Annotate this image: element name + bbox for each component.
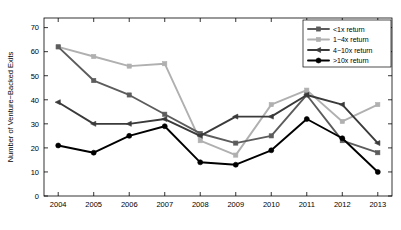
data-point — [376, 151, 380, 155]
x-tick-label: 2007 — [156, 200, 173, 209]
x-tick-label: 2008 — [192, 200, 209, 209]
x-tick-label: 2005 — [85, 200, 102, 209]
data-point — [127, 64, 131, 68]
series-line-2 — [58, 95, 378, 143]
data-point — [56, 143, 61, 148]
data-point — [162, 124, 167, 129]
data-point — [56, 45, 60, 49]
data-point — [375, 169, 380, 174]
y-tick-label: 40 — [31, 96, 39, 105]
data-point — [305, 88, 309, 92]
legend-label-0: <1x return — [333, 26, 365, 33]
y-tick-label: 20 — [31, 144, 39, 153]
x-tick-label: 2009 — [227, 200, 244, 209]
x-tick-label: 2010 — [263, 200, 280, 209]
data-point — [340, 119, 344, 123]
data-point — [269, 134, 273, 138]
data-point — [269, 148, 274, 153]
x-tick-label: 2012 — [334, 200, 351, 209]
y-tick-label: 30 — [31, 120, 39, 129]
legend-marker-0 — [316, 27, 320, 31]
data-point — [233, 162, 238, 167]
y-tick-label: 70 — [31, 23, 39, 32]
x-tick-label: 2011 — [299, 200, 315, 209]
data-point — [304, 117, 309, 122]
x-tick-label: 2004 — [50, 200, 67, 209]
data-point — [92, 54, 96, 58]
y-axis-title: Number of Venture−Backed Exits — [6, 51, 15, 162]
data-point — [234, 141, 238, 145]
data-point — [339, 102, 344, 107]
data-point — [126, 121, 131, 126]
data-point — [91, 150, 96, 155]
legend-label-1: 1−4x return — [333, 36, 369, 43]
line-chart: 0102030405060702004200520062007200820092… — [0, 0, 401, 230]
data-point — [340, 136, 345, 141]
legend-label-3: >10x return — [333, 57, 369, 64]
data-point — [198, 139, 202, 143]
data-point — [163, 62, 167, 66]
legend-marker-3 — [316, 58, 321, 63]
data-point — [55, 100, 60, 105]
data-point — [268, 114, 273, 119]
y-tick-label: 60 — [31, 47, 39, 56]
chart-figure: 0102030405060702004200520062007200820092… — [0, 0, 401, 230]
data-point — [234, 153, 238, 157]
data-point — [127, 93, 131, 97]
data-point — [376, 102, 380, 106]
y-tick-label: 10 — [31, 168, 39, 177]
data-point — [92, 78, 96, 82]
legend-label-2: 4−10x return — [333, 47, 373, 54]
data-point — [163, 112, 167, 116]
data-point — [198, 160, 203, 165]
x-tick-label: 2013 — [369, 200, 386, 209]
data-point — [127, 133, 132, 138]
y-tick-label: 0 — [35, 192, 39, 201]
y-tick-label: 50 — [31, 72, 39, 81]
legend-marker-1 — [316, 37, 320, 41]
x-tick-label: 2006 — [121, 200, 138, 209]
data-point — [269, 102, 273, 106]
data-point — [162, 117, 167, 122]
